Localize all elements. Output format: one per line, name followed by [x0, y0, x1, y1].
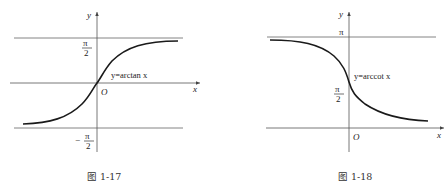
origin-label: O: [353, 132, 360, 142]
function-label: y=arctan x: [111, 70, 148, 80]
tick-pi-over-2: π 2: [82, 38, 92, 58]
tick-pi: π: [339, 27, 344, 37]
arccot-chart: y x O y=arccot x π π 2 图 1-18: [266, 9, 444, 182]
arctan-chart: y x O y=arctan x π 2 − π 2 图 1-17: [10, 10, 200, 182]
arctan-curve: [23, 41, 178, 124]
svg-text:−: −: [75, 135, 80, 145]
tick-neg-pi-over-2: − π 2: [75, 131, 94, 151]
figure-caption: 图 1-18: [338, 171, 372, 182]
tick-pi-over-2: π 2: [334, 84, 344, 104]
svg-text:2: 2: [336, 94, 341, 104]
svg-text:π: π: [335, 84, 340, 94]
svg-text:2: 2: [84, 48, 89, 58]
function-label: y=arccot x: [354, 71, 391, 81]
origin-label: O: [101, 87, 108, 97]
y-axis-label: y: [86, 10, 91, 20]
y-axis-label: y: [338, 9, 343, 19]
svg-text:π: π: [85, 131, 90, 141]
x-axis-label: x: [192, 84, 197, 94]
figure-canvas: y x O y=arctan x π 2 − π 2 图 1-17 y x O …: [0, 0, 447, 185]
figure-caption: 图 1-17: [87, 171, 121, 182]
svg-text:2: 2: [86, 141, 91, 151]
x-axis-label: x: [436, 130, 441, 140]
svg-text:π: π: [83, 38, 88, 48]
